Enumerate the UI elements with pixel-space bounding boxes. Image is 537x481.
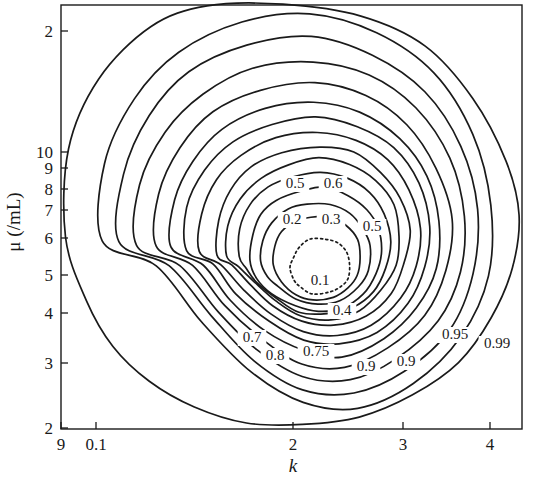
contour-path-0p7 — [198, 132, 421, 335]
x-tick-label: 2 — [289, 435, 298, 454]
x-axis-ticks: 90.1234 — [57, 422, 495, 454]
contour-path-0p3 — [260, 203, 370, 304]
y-tick-label: 4 — [45, 304, 54, 323]
contour-label: 0.6 — [324, 175, 343, 191]
contour-label: 0.8 — [266, 347, 285, 363]
x-tick-label: 3 — [399, 435, 408, 454]
contour-label: 0.9 — [397, 353, 416, 369]
contour-label: 0.9 — [357, 358, 376, 374]
contour-label: 0.5 — [363, 218, 382, 234]
y-tick-label: 6 — [45, 229, 54, 248]
contour-label: 0.5 — [286, 175, 305, 191]
contour-label: 0.99 — [484, 335, 510, 351]
y-tick-label: 8 — [45, 180, 54, 199]
contour-label: 0.1 — [311, 272, 330, 288]
x-axis-title: k — [289, 455, 298, 476]
y-tick-label: 3 — [45, 354, 54, 373]
contour-plot-canvas: 90.1234 21098765432 0.50.60.20.30.50.10.… — [0, 0, 537, 481]
y-tick-label: 7 — [45, 201, 54, 220]
y-tick-label: 2 — [45, 419, 54, 438]
y-axis-title: μ (/mL) — [3, 192, 25, 251]
y-tick-label: 5 — [45, 266, 54, 285]
contour-label: 0.2 — [283, 211, 302, 227]
contour-label: 0.4 — [333, 302, 352, 318]
x-tick-label: 9 — [57, 435, 66, 454]
contour-label: 0.3 — [322, 211, 341, 227]
y-tick-label: 9 — [45, 159, 54, 178]
contour-label: 0.75 — [303, 343, 329, 359]
contour-plot-figure: 90.1234 21098765432 0.50.60.20.30.50.10.… — [0, 0, 537, 481]
contour-label: 0.7 — [243, 329, 262, 345]
y-axis-ticks: 21098765432 — [36, 22, 68, 438]
contour-label: 0.95 — [442, 326, 468, 342]
x-tick-label: 0.1 — [85, 435, 106, 454]
x-tick-label: 4 — [486, 435, 495, 454]
y-tick-label: 2 — [45, 22, 54, 41]
